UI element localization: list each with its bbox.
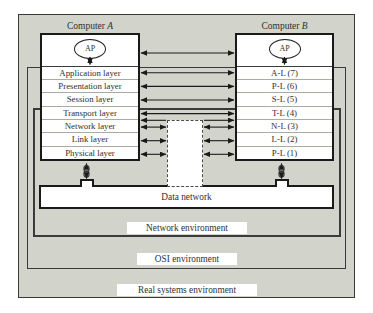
real-systems-environment-label: Real systems environment xyxy=(117,284,257,296)
osi-environment-label: OSI environment xyxy=(137,253,237,265)
layer-row-a-session: Session layer xyxy=(42,92,138,105)
layer-row-a-network: Network layer xyxy=(42,119,138,132)
data-network-box: Data network xyxy=(39,185,334,209)
relay-node-dashed-box xyxy=(167,120,203,187)
network-attachment-plug-left xyxy=(80,179,94,187)
layer-row-b-presentation: P-L (6) xyxy=(237,79,332,92)
layer-row-a-physical: Physical layer xyxy=(42,146,138,159)
layer-row-a-link: Link layer xyxy=(42,132,138,145)
computer-a-ap-zone: AP xyxy=(42,35,138,66)
layer-row-b-network: N-L (3) xyxy=(237,119,332,132)
network-environment-label: Network environment xyxy=(127,222,247,234)
computer-b-title-letter: B xyxy=(302,21,308,31)
computer-a-title-letter: A xyxy=(107,21,113,31)
computer-a-box: AP Application layer Presentation layer … xyxy=(40,33,140,161)
layer-row-b-session: S-L (5) xyxy=(237,92,332,105)
layer-row-b-transport: T-L (4) xyxy=(237,106,332,119)
data-network-label: Data network xyxy=(161,192,211,202)
osi-reference-model-diagram: Data network Computer A Computer B AP Ap… xyxy=(0,0,373,313)
layer-row-a-application: Application layer xyxy=(42,67,138,79)
ap-process-b: AP xyxy=(269,39,301,59)
layer-row-b-application: A-L (7) xyxy=(237,67,332,79)
layer-row-b-physical: P-L (1) xyxy=(237,146,332,159)
computer-b-ap-zone: AP xyxy=(237,35,332,66)
layer-row-a-presentation: Presentation layer xyxy=(42,79,138,92)
computer-b-layer-stack: A-L (7) P-L (6) S-L (5) T-L (4) N-L (3) … xyxy=(237,66,332,160)
layer-row-b-link: L-L (2) xyxy=(237,132,332,145)
network-attachment-plug-right xyxy=(275,179,289,187)
computer-b-title-text: Computer xyxy=(261,21,299,31)
layer-row-a-transport: Transport layer xyxy=(42,106,138,119)
computer-a-layer-stack: Application layer Presentation layer Ses… xyxy=(42,66,138,160)
ap-label-a: AP xyxy=(85,44,95,53)
computer-a-title: Computer A xyxy=(40,20,140,32)
computer-a-title-text: Computer xyxy=(67,21,105,31)
ap-process-a: AP xyxy=(74,39,106,59)
computer-b-title: Computer B xyxy=(235,20,334,32)
ap-label-b: AP xyxy=(279,44,289,53)
computer-b-box: AP A-L (7) P-L (6) S-L (5) T-L (4) N-L (… xyxy=(235,33,334,161)
